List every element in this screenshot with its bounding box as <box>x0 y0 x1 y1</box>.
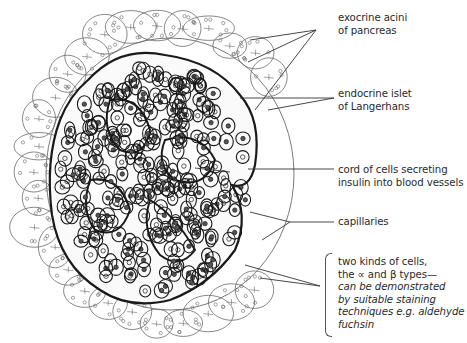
label-line-italic: by suitable staining <box>338 294 464 307</box>
label-line-italic: techniques e.g. aldehyde <box>338 306 464 319</box>
label-exocrine-acini: exocrine acini of pancreas <box>338 12 407 37</box>
label-line: of Langerhans <box>338 101 412 114</box>
label-endocrine-islet: endocrine islet of Langerhans <box>338 88 412 113</box>
label-line: cord of cells secreting <box>338 164 463 177</box>
label-line: endocrine islet <box>338 88 412 101</box>
label-line-italic: fuchsin <box>338 319 464 332</box>
label-line: two kinds of cells, <box>338 256 464 269</box>
label-line: of pancreas <box>338 25 407 38</box>
label-line-italic: can be demonstrated <box>338 281 464 294</box>
label-capillaries: capillaries <box>338 216 389 229</box>
bracket <box>325 253 332 337</box>
label-line: insulin into blood vessels <box>338 177 463 190</box>
islet-of-langerhans <box>50 53 257 304</box>
label-line: capillaries <box>338 216 389 229</box>
label-cell-types: two kinds of cells, the ∝ and β types— c… <box>338 256 464 332</box>
label-line: exocrine acini <box>338 12 407 25</box>
label-cord-of-cells: cord of cells secreting insulin into blo… <box>338 164 463 189</box>
label-line: the ∝ and β types— <box>338 269 464 282</box>
